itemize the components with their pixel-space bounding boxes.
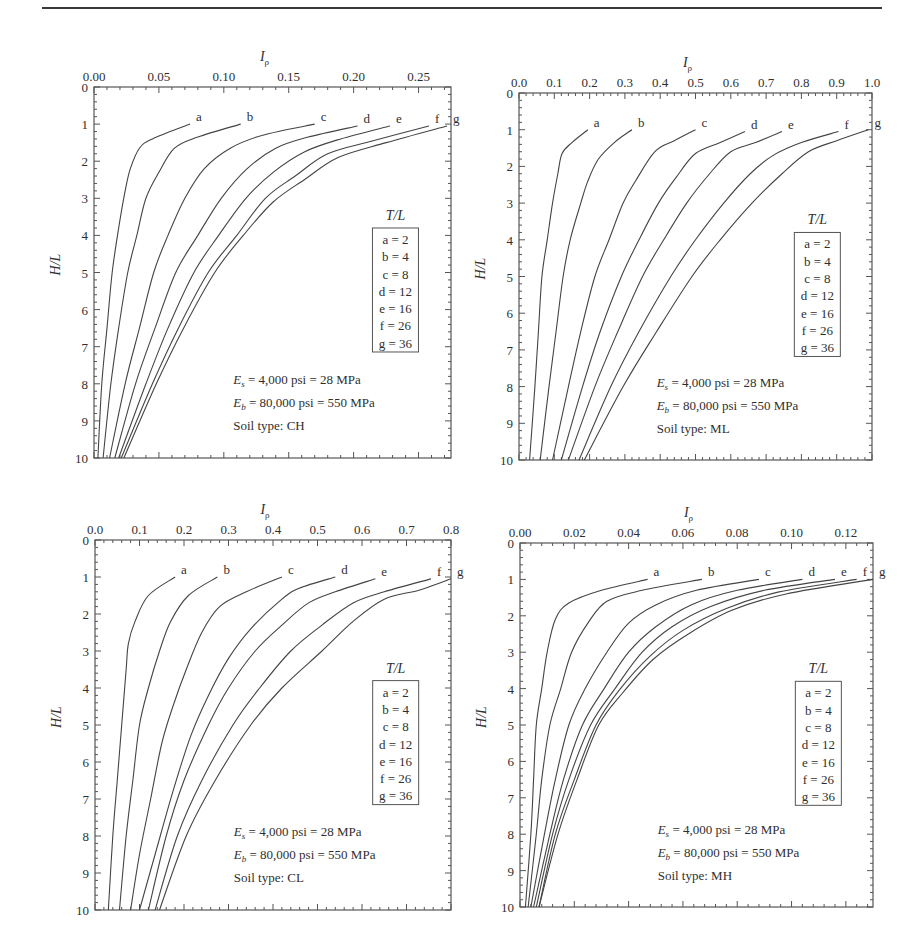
svg-text:0.02: 0.02 <box>563 525 586 540</box>
svg-text:Eb = 80,000 psi = 550 MPa: Eb = 80,000 psi = 550 MPa <box>657 845 800 862</box>
svg-text:0.10: 0.10 <box>780 525 803 540</box>
y-axis-tick-labels: 012345678910 <box>501 536 515 915</box>
legend: T/La = 2b = 4c = 8d = 12e = 16f = 26g = … <box>795 661 841 805</box>
curve-label-a: a <box>654 564 660 579</box>
legend-entry: d = 12 <box>802 737 835 752</box>
curve-label-c: c <box>765 564 771 579</box>
chart-panel-mh: 0.000.020.040.060.080.100.12Iρ0123456789… <box>0 0 919 952</box>
svg-text:1: 1 <box>508 572 515 587</box>
legend-entry: c = 8 <box>805 720 831 735</box>
legend-entry: a = 2 <box>805 685 831 700</box>
svg-text:6: 6 <box>508 754 515 769</box>
legend-entry: e = 16 <box>802 755 835 770</box>
curve-label-e: e <box>841 564 847 579</box>
svg-text:Es = 4,000 psi = 28 MPa: Es = 4,000 psi = 28 MPa <box>657 822 786 839</box>
svg-text:3: 3 <box>508 645 515 660</box>
x-axis-label: Iρ <box>683 505 694 523</box>
curve-label-g: g <box>879 564 886 579</box>
legend-entry: b = 4 <box>805 703 832 718</box>
legend-entry: f = 26 <box>803 772 835 787</box>
legend-title: T/L <box>809 661 829 676</box>
annotations: Es = 4,000 psi = 28 MPaEb = 80,000 psi =… <box>657 822 800 883</box>
x-axis-tick-labels: 0.000.020.040.060.080.100.12 <box>509 525 858 540</box>
curve-label-f: f <box>863 564 868 579</box>
svg-text:0.08: 0.08 <box>726 525 749 540</box>
svg-text:4: 4 <box>508 682 515 697</box>
svg-text:5: 5 <box>508 718 515 733</box>
curve-a <box>525 579 647 907</box>
curve-label-b: b <box>708 564 715 579</box>
svg-text:0.04: 0.04 <box>617 525 640 540</box>
curve-label-d: d <box>808 564 815 579</box>
svg-text:0.12: 0.12 <box>834 525 857 540</box>
svg-text:7: 7 <box>508 791 515 806</box>
svg-text:8: 8 <box>508 827 515 842</box>
svg-text:Soil type: MH: Soil type: MH <box>658 868 732 883</box>
svg-text:9: 9 <box>508 864 515 879</box>
y-axis-label: H/L <box>474 706 489 729</box>
svg-text:0: 0 <box>508 536 515 551</box>
svg-text:0.06: 0.06 <box>672 525 695 540</box>
svg-text:2: 2 <box>508 609 515 624</box>
legend-entry: g = 36 <box>802 789 836 804</box>
svg-text:10: 10 <box>501 900 514 915</box>
